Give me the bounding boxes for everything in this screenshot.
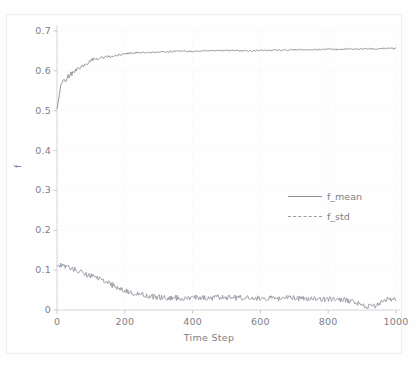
y-tick-label: 0.6 xyxy=(13,65,51,76)
legend-swatch-solid-line-icon xyxy=(288,196,322,197)
y-tick-label: 0 xyxy=(13,304,51,315)
y-tick-label: 0.1 xyxy=(13,264,51,275)
x-tick-label: 0 xyxy=(37,316,77,327)
legend-label-f-std: f_std xyxy=(327,211,350,222)
y-tick-label: 0.2 xyxy=(13,224,51,235)
x-tick-label: 200 xyxy=(105,316,145,327)
y-tick-label: 0.4 xyxy=(13,145,51,156)
legend-item-f-mean: f_mean xyxy=(288,186,398,206)
chart-legend: f_mean f_std xyxy=(288,186,398,226)
x-tick-label: 800 xyxy=(308,316,348,327)
y-tick-label: 0.7 xyxy=(13,25,51,36)
legend-label-f-mean: f_mean xyxy=(327,191,362,202)
y-axis-label: f xyxy=(12,165,23,168)
x-tick-label: 600 xyxy=(240,316,280,327)
legend-swatch-dashed-line-icon xyxy=(288,216,322,217)
x-tick-label: 1000 xyxy=(376,316,416,327)
y-tick-label: 0.3 xyxy=(13,184,51,195)
line-chart-figure: f Time Step f_mean f_std 00.10.20.30.40.… xyxy=(0,0,418,374)
y-tick-label: 0.5 xyxy=(13,105,51,116)
x-tick-label: 400 xyxy=(173,316,213,327)
legend-item-f-std: f_std xyxy=(288,206,398,226)
x-axis-label: Time Step xyxy=(0,332,418,343)
chart-page: f Time Step f_mean f_std 00.10.20.30.40.… xyxy=(0,0,418,374)
